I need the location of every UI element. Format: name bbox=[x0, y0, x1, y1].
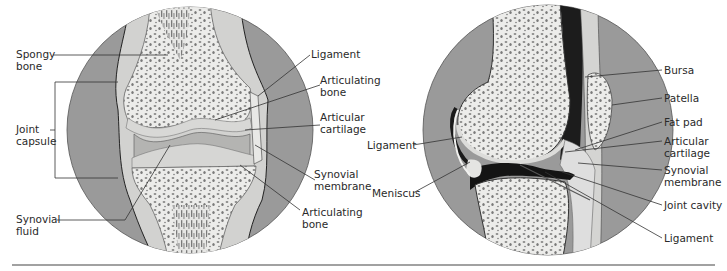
label-line: Patella bbox=[664, 92, 699, 104]
label-line: Articulating bbox=[302, 206, 363, 218]
left-joint-illustration bbox=[67, 0, 313, 271]
label-line: Synovial bbox=[664, 164, 721, 176]
label-joint-capsule: Joint capsule bbox=[16, 123, 56, 147]
label-synovial-fluid: Synovial fluid bbox=[16, 213, 60, 237]
label-joint-cavity: Joint cavity bbox=[664, 199, 722, 211]
label-line: Spongy bbox=[16, 48, 55, 60]
label-articular-cartilage-left: Articular cartilage bbox=[320, 111, 366, 135]
label-fat-pad: Fat pad bbox=[664, 116, 703, 128]
label-ligament-knee-left: Ligament bbox=[367, 139, 416, 151]
label-ligament-left: Ligament bbox=[311, 48, 360, 60]
label-line: membrane bbox=[664, 176, 721, 188]
label-line: bone bbox=[16, 60, 55, 72]
label-articular-cartilage-knee: Articular cartilage bbox=[664, 135, 710, 159]
label-ligament-knee-bottom: Ligament bbox=[664, 232, 713, 244]
label-articulating-bone-bottom: Articulating bone bbox=[302, 206, 363, 230]
label-line: Bursa bbox=[664, 64, 694, 76]
label-line: cartilage bbox=[664, 147, 710, 159]
label-line: Synovial bbox=[16, 213, 60, 225]
label-line: Ligament bbox=[664, 232, 713, 244]
right-knee-illustration bbox=[423, 0, 673, 271]
label-synovial-membrane-knee: Synovial membrane bbox=[664, 164, 721, 188]
label-line: Ligament bbox=[311, 48, 360, 60]
label-articulating-bone-top: Articulating bone bbox=[320, 74, 381, 98]
label-line: Articular bbox=[664, 135, 710, 147]
label-line: fluid bbox=[16, 225, 60, 237]
label-line: Joint cavity bbox=[664, 199, 722, 211]
label-meniscus: Meniscus bbox=[372, 187, 420, 199]
label-line: membrane bbox=[314, 180, 371, 192]
label-bursa: Bursa bbox=[664, 64, 694, 76]
label-line: Fat pad bbox=[664, 116, 703, 128]
label-line: bone bbox=[302, 218, 363, 230]
label-line: Synovial bbox=[314, 168, 371, 180]
label-line: cartilage bbox=[320, 123, 366, 135]
label-synovial-membrane-left: Synovial membrane bbox=[314, 168, 371, 192]
label-line: bone bbox=[320, 86, 381, 98]
label-line: Ligament bbox=[367, 139, 416, 151]
label-line: capsule bbox=[16, 135, 56, 147]
label-line: Meniscus bbox=[372, 187, 420, 199]
label-line: Joint bbox=[16, 123, 56, 135]
label-line: Articulating bbox=[320, 74, 381, 86]
joint-diagram bbox=[0, 0, 727, 271]
label-line: Articular bbox=[320, 111, 366, 123]
label-spongy-bone: Spongy bone bbox=[16, 48, 55, 72]
label-patella: Patella bbox=[664, 92, 699, 104]
